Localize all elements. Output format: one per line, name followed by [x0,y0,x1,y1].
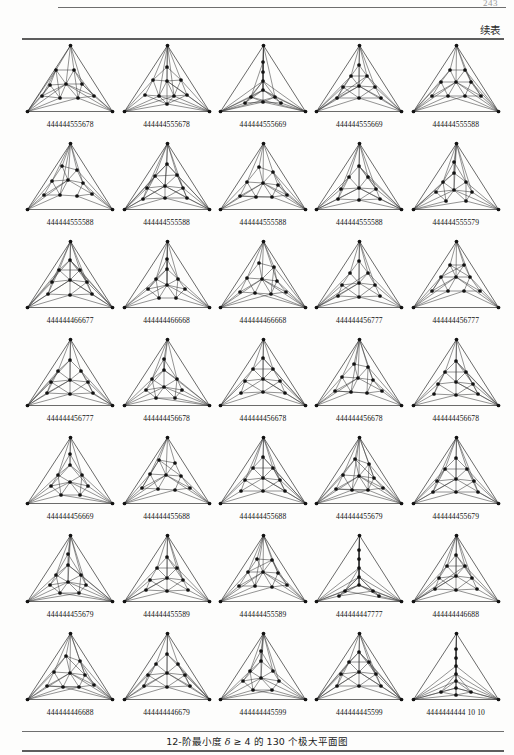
degree-sequence-label: 444444455589 [240,610,287,620]
graph-grid-row: 4444445556784444445556784444445556694444… [22,40,504,138]
graph-cell: 444444456777 [311,236,407,334]
degree-sequence-label: 444444555678 [47,120,94,130]
planar-graph-figure [311,530,407,609]
planar-graph-figure [215,530,311,609]
degree-sequence-label: 444444455589 [143,610,190,620]
graph-grid-row: 4444444556794444444555894444444555894444… [22,530,504,628]
planar-graph-figure [408,334,504,413]
graph-cell: 444444456678 [215,334,311,432]
graph-cell: 444444466668 [215,236,311,334]
degree-sequence-label: 444444466668 [143,316,190,326]
graph-cell: 444444456777 [408,236,504,334]
planar-graph-figure [215,138,311,217]
graph-cell: 444444555588 [215,138,311,236]
graph-grid-row: 4444444466884444444466794444444455994444… [22,628,504,726]
degree-sequence-label: 444444456777 [336,316,383,326]
planar-graph-figure [215,628,311,707]
degree-sequence-label: 444444446688 [47,708,94,718]
planar-graph-figure [119,334,215,413]
planar-graph-figure [311,432,407,511]
planar-graph-figure [311,334,407,413]
degree-sequence-label: 444444455679 [336,512,383,522]
table-caption: 12-阶最小度 δ ≥ 4 的 130 个极大平面图 [0,734,514,748]
graph-cell: 444444555678 [118,40,214,138]
graph-cell: 444444466668 [118,236,214,334]
degree-sequence-label: 444444445599 [240,708,287,718]
degree-sequence-label: 444444555588 [47,218,94,228]
degree-sequence-label: 444444456678 [143,414,190,424]
planar-graph-figure [408,40,504,119]
degree-sequence-label: 444444555588 [336,218,383,228]
graph-cell: 444444455679 [22,530,118,628]
table-bottom-rule [22,731,504,732]
planar-graph-figure [119,432,215,511]
planar-graph-figure [408,530,504,609]
graph-cell: 444444446688 [22,628,118,726]
graph-grid: 4444445556784444445556784444445556694444… [22,40,504,726]
planar-graph-figure [408,138,504,217]
graph-cell: 444444555669 [215,40,311,138]
header-rule [58,7,506,8]
planar-graph-figure [22,236,118,315]
planar-graph-figure [408,628,504,707]
degree-sequence-label: 444444456777 [432,316,479,326]
graph-cell: 444444555678 [22,40,118,138]
planar-graph-figure [119,40,215,119]
graph-cell: 444444456678 [118,334,214,432]
graph-cell: 444444456678 [311,334,407,432]
graph-grid-row: 4444444666774444444666684444444666684444… [22,236,504,334]
graph-cell: 444444466677 [22,236,118,334]
graph-cell: 444444455589 [118,530,214,628]
degree-sequence-label: 444444445599 [336,708,383,718]
degree-sequence-label: 444444456777 [47,414,94,424]
page-bottom-rule [22,750,504,752]
planar-graph-figure [215,236,311,315]
caption-middle: ≥ 4 的 130 个极大平面图 [231,736,348,747]
degree-sequence-label: 444444466677 [47,316,94,326]
planar-graph-figure [22,334,118,413]
graph-cell: 444444555588 [22,138,118,236]
degree-sequence-label: 444444456669 [47,512,94,522]
graph-grid-row: 4444444566694444444556884444444556884444… [22,432,504,530]
graph-cell: 4444444444 10 10 [408,628,504,726]
planar-graph-figure [22,40,118,119]
caption-prefix: 12-阶最小度 [166,736,225,747]
planar-graph-figure [22,628,118,707]
planar-graph-figure [22,432,118,511]
planar-graph-figure [311,628,407,707]
planar-graph-figure [22,530,118,609]
degree-sequence-label: 444444456678 [336,414,383,424]
graph-cell: 444444456678 [408,334,504,432]
degree-sequence-label: 444444455688 [143,512,190,522]
planar-graph-figure [311,40,407,119]
graph-cell: 444444446679 [118,628,214,726]
degree-sequence-label: 444444447777 [336,610,383,620]
graph-cell: 444444455679 [408,432,504,530]
graph-cell: 444444445599 [215,628,311,726]
degree-sequence-label: 444444555579 [432,218,479,228]
graph-cell: 444444456777 [22,334,118,432]
continued-table-label: 续表 [480,22,500,37]
degree-sequence-label: 444444555588 [240,218,287,228]
degree-sequence-label: 444444455679 [47,610,94,620]
graph-cell: 444444447777 [311,530,407,628]
graph-cell: 444444555588 [408,40,504,138]
planar-graph-figure [119,236,215,315]
degree-sequence-label: 444444455688 [240,512,287,522]
graph-cell: 444444455589 [215,530,311,628]
graph-cell: 444444555588 [118,138,214,236]
degree-sequence-label: 444444555669 [240,120,287,130]
planar-graph-figure [119,530,215,609]
degree-sequence-label: 444444555588 [432,120,479,130]
planar-graph-figure [215,334,311,413]
graph-cell: 444444455679 [311,432,407,530]
graph-cell: 444444455688 [215,432,311,530]
degree-sequence-label: 444444446688 [432,610,479,620]
graph-grid-row: 4444445555884444445555884444445555884444… [22,138,504,236]
planar-graph-figure [22,138,118,217]
degree-sequence-label: 4444444444 10 10 [426,708,485,718]
graph-grid-row: 4444444567774444444566784444444566784444… [22,334,504,432]
graph-cell: 444444555579 [408,138,504,236]
graph-cell: 444444555669 [311,40,407,138]
planar-graph-figure [311,236,407,315]
